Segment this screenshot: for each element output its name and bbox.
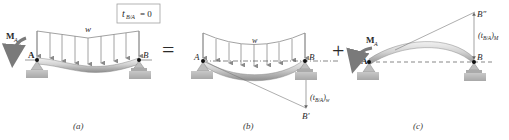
label-b: B [309,52,315,62]
caption-c: (c) [413,121,423,131]
node-a [35,58,39,62]
label-a: A [193,52,200,62]
node-b [303,59,307,63]
support-b-roller [464,63,486,81]
panel-a: t B/A = 0 w [6,4,160,131]
condition-t: t [122,8,125,19]
label-a: A [361,56,368,66]
moment-sub: A [13,37,18,43]
caption-b: (b) [243,121,254,131]
label-b: B [477,52,483,62]
panel-b: w A B (tB/A)w B′ (b) [191,33,340,131]
beam-superposition-diagram: t B/A = 0 w [0,0,509,140]
condition-rhs: = 0 [140,9,152,19]
load-label-w: w [252,36,258,45]
condition-box: t B/A = 0 [117,4,160,23]
plus-operator: + [332,38,344,63]
node-a [367,60,371,64]
point-b-prime: B′ [302,111,310,121]
load-label-w: w [85,24,91,34]
moment-sub: A [373,41,378,47]
node-b [472,60,476,64]
load-arrows [37,31,139,64]
point-b-double-prime: B″ [477,9,486,19]
node-b [137,58,141,62]
label-a: A [28,50,35,60]
condition-sub: B/A [126,14,135,20]
deviation-label: (tB/A)M [478,31,499,41]
node-a [201,59,205,63]
label-b: B [143,50,149,60]
equals-operator: = [162,37,174,62]
beam [369,42,474,65]
panel-c: A B M A (tB/A)M B″ (c) [355,9,499,131]
deviation-label: (tB/A)w [310,93,330,103]
caption-a: (a) [73,121,84,131]
